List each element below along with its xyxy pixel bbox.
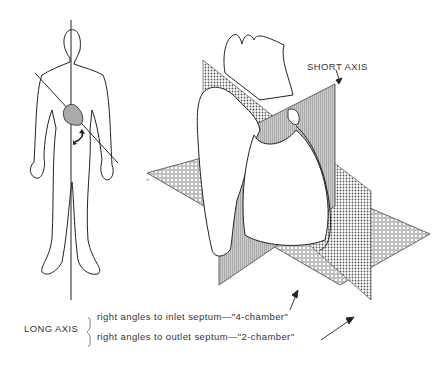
two-chamber-description: right angles to outlet septum—"2-chamber…: [97, 331, 294, 342]
human-body-outline: [30, 30, 113, 275]
heart-in-chest: [63, 104, 82, 125]
human-figure: [30, 30, 113, 275]
short-axis-label: SHORT AXIS: [307, 61, 368, 72]
long-axis-brace: [87, 318, 90, 346]
four-chamber-description: right angles to inlet septum—"4-chamber": [97, 311, 288, 322]
stray-mark: «: [146, 176, 150, 182]
long-axis-label: LONG AXIS: [24, 323, 78, 334]
arrowhead: [79, 129, 85, 134]
